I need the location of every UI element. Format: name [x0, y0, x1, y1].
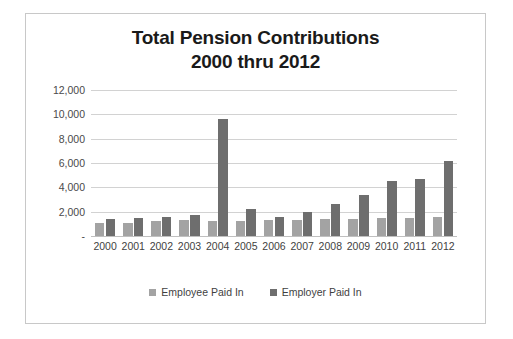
y-axis-tick-label: 12,000: [53, 84, 85, 96]
bar-employee-paid-in-2001[interactable]: [123, 223, 132, 236]
bar-employer-paid-in-2004[interactable]: [218, 119, 227, 236]
y-axis-tick-label: 2,000: [59, 206, 85, 218]
bar-employer-paid-in-2006[interactable]: [275, 217, 284, 236]
x-axis-tick-label-2001: 2001: [122, 240, 145, 252]
bar-employee-paid-in-2009[interactable]: [348, 219, 357, 236]
chart-title-line-1: Total Pension Contributions: [26, 26, 485, 50]
plot-area: 12,00010,0008,0006,0004,0002,000-: [91, 90, 457, 236]
bar-employee-paid-in-2005[interactable]: [236, 221, 245, 236]
bar-employer-paid-in-2000[interactable]: [106, 219, 115, 236]
bar-group: [264, 90, 284, 236]
bar-group: [236, 90, 256, 236]
x-axis-tick-label-2000: 2000: [93, 240, 116, 252]
bar-group: [377, 90, 397, 236]
bar-employer-paid-in-2003[interactable]: [190, 215, 199, 236]
legend-swatch-icon: [149, 289, 156, 296]
gridline: -: [91, 236, 457, 237]
y-axis-tick-label: 10,000: [53, 108, 85, 120]
x-axis-tick-label-2005: 2005: [234, 240, 257, 252]
bar-employer-paid-in-2012[interactable]: [444, 161, 453, 236]
legend-item-employer[interactable]: Employer Paid In: [270, 286, 362, 298]
bar-employer-paid-in-2008[interactable]: [331, 204, 340, 236]
bar-employee-paid-in-2002[interactable]: [151, 221, 160, 236]
x-axis-tick-label-2004: 2004: [206, 240, 229, 252]
y-axis-tick-label: 4,000: [59, 181, 85, 193]
x-axis-tick-label-2002: 2002: [150, 240, 173, 252]
bar-group: [405, 90, 425, 236]
bar-employee-paid-in-2012[interactable]: [433, 217, 442, 236]
y-axis-tick-label: 6,000: [59, 157, 85, 169]
chart-frame: Total Pension Contributions 2000 thru 20…: [25, 13, 486, 324]
x-axis-tick-label-2009: 2009: [347, 240, 370, 252]
x-axis-labels: 2000200120022003200420052006200720082009…: [91, 240, 457, 258]
bars-layer: [91, 90, 457, 236]
bar-employer-paid-in-2010[interactable]: [387, 181, 396, 236]
bar-employee-paid-in-2006[interactable]: [264, 220, 273, 236]
bar-group: [208, 90, 228, 236]
bar-group: [320, 90, 340, 236]
x-axis-tick-label-2003: 2003: [178, 240, 201, 252]
bar-employer-paid-in-2002[interactable]: [162, 217, 171, 236]
bar-employee-paid-in-2000[interactable]: [95, 223, 104, 236]
y-axis-tick-label: -: [82, 230, 86, 242]
bar-group: [95, 90, 115, 236]
chart-title: Total Pension Contributions 2000 thru 20…: [26, 26, 485, 74]
x-axis-tick-label-2012: 2012: [431, 240, 454, 252]
bar-employer-paid-in-2005[interactable]: [246, 209, 255, 236]
bar-employer-paid-in-2011[interactable]: [415, 179, 424, 236]
legend-label: Employer Paid In: [282, 286, 362, 298]
x-axis-tick-label-2010: 2010: [375, 240, 398, 252]
bar-employer-paid-in-2007[interactable]: [303, 212, 312, 236]
bar-employee-paid-in-2008[interactable]: [320, 219, 329, 236]
bar-group: [123, 90, 143, 236]
x-axis-tick-label-2006: 2006: [262, 240, 285, 252]
bar-group: [292, 90, 312, 236]
bar-group: [433, 90, 453, 236]
bar-employer-paid-in-2001[interactable]: [134, 218, 143, 236]
legend-item-employee[interactable]: Employee Paid In: [149, 286, 243, 298]
legend-swatch-icon: [270, 289, 277, 296]
x-axis-tick-label-2011: 2011: [403, 240, 426, 252]
bar-employee-paid-in-2003[interactable]: [179, 220, 188, 236]
y-axis-tick-label: 8,000: [59, 133, 85, 145]
bar-group: [179, 90, 199, 236]
bar-employee-paid-in-2010[interactable]: [377, 218, 386, 236]
chart-title-line-2: 2000 thru 2012: [26, 50, 485, 74]
bar-employee-paid-in-2007[interactable]: [292, 220, 301, 236]
bar-employee-paid-in-2011[interactable]: [405, 218, 414, 236]
x-axis-tick-label-2007: 2007: [290, 240, 313, 252]
chart-legend: Employee Paid InEmployer Paid In: [26, 286, 485, 298]
bar-group: [348, 90, 368, 236]
bar-employer-paid-in-2009[interactable]: [359, 195, 368, 236]
bar-employee-paid-in-2004[interactable]: [208, 221, 217, 236]
x-axis-tick-label-2008: 2008: [319, 240, 342, 252]
bar-group: [151, 90, 171, 236]
legend-label: Employee Paid In: [161, 286, 243, 298]
